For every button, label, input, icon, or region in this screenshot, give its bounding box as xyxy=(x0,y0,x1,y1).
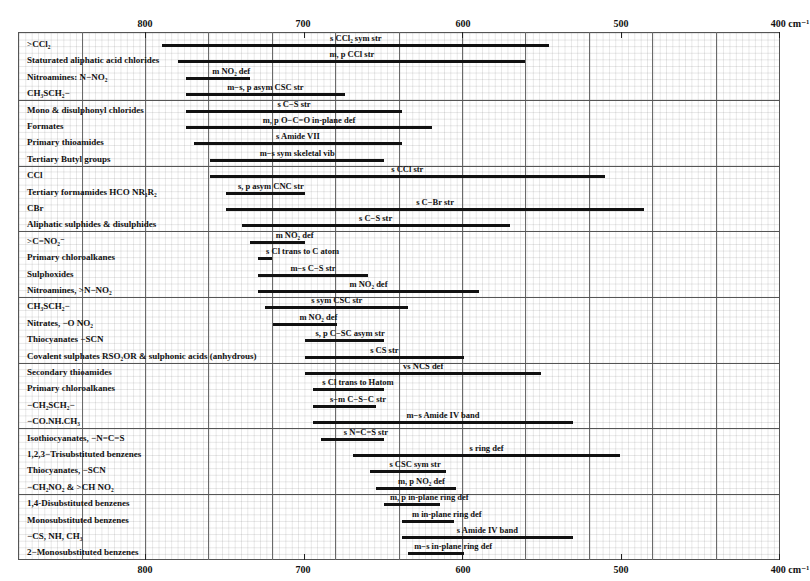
row-label: Secondary thioamides xyxy=(27,367,112,377)
absorption-range-bar xyxy=(226,192,305,195)
top-tick-700: 700 xyxy=(296,18,311,29)
axis-tick-mark xyxy=(779,554,780,560)
absorption-range-bar xyxy=(210,159,384,162)
band-assignment-label: m−s C−S str xyxy=(290,263,335,273)
row-label: −CH₂NO₂ & >CH NO₂ xyxy=(27,482,114,492)
top-tick-500: 500 xyxy=(614,18,629,29)
row-label: −CS, NH, CH₃ xyxy=(27,531,82,541)
band-assignment-label: s C−Br str xyxy=(416,197,454,207)
row-label: Isothiocyanates, −N=C=S xyxy=(27,433,124,443)
absorption-range-bar xyxy=(186,77,249,80)
absorption-range-bar xyxy=(370,470,446,473)
absorption-range-bar xyxy=(250,241,305,244)
row-label: −CH₂SCH₂− xyxy=(27,400,75,410)
group-separator xyxy=(18,297,780,298)
absorption-range-bar xyxy=(305,372,541,375)
bottom-tick-600: 600 xyxy=(456,564,471,575)
band-assignment-label: s C−S str xyxy=(359,213,392,223)
row-label: CH₃SCH₂− xyxy=(27,88,70,98)
row-label: Aliphatic sulphides & disulphides xyxy=(27,219,156,229)
bottom-tick-400: 400 cm⁻¹ xyxy=(771,564,810,575)
band-assignment-label: m in-plane ring def xyxy=(412,509,482,519)
band-assignment-label: m NO₂ def xyxy=(276,230,314,240)
gridline-vertical xyxy=(525,32,526,560)
absorption-range-bar xyxy=(194,142,402,145)
band-assignment-label: s CCl₂ sym str xyxy=(330,33,381,43)
top-tick-400: 400 cm⁻¹ xyxy=(771,18,810,29)
axis-tick-mark xyxy=(145,554,146,560)
band-assignment-label: s ring def xyxy=(470,443,504,453)
band-assignment-label: s C−S str xyxy=(277,99,310,109)
row-label: 2−Monosubstituted benzenes xyxy=(27,547,138,557)
top-tick-600: 600 xyxy=(456,18,471,29)
band-assignment-label: s CCl str xyxy=(391,164,423,174)
absorption-range-bar xyxy=(258,274,369,277)
band-assignment-label: m−s sym skeletal vib xyxy=(260,148,335,158)
top-tick-800: 800 xyxy=(138,18,153,29)
absorption-range-bar xyxy=(186,93,345,96)
row-label: Nitrates, −O NO₂ xyxy=(27,318,93,328)
absorption-range-bar xyxy=(162,44,549,47)
row-label: Staturated aliphatic acid chlorides xyxy=(27,55,159,65)
bottom-tick-500: 500 xyxy=(614,564,629,575)
row-label: Thiocyanates, −SCN xyxy=(27,465,106,475)
row-label: 1,4-Disubstituted benzenes xyxy=(27,498,130,508)
band-assignment-label: s Amide IV band xyxy=(457,525,518,535)
row-label: >C=NO₂⁻ xyxy=(27,236,65,246)
absorption-range-bar xyxy=(226,208,644,211)
row-label: Nitroamines, >N−NO₂ xyxy=(27,285,112,295)
row-label: Covalent sulphates RSO₂OR & sulphonic ac… xyxy=(27,351,257,361)
absorption-range-bar xyxy=(258,257,272,260)
group-separator xyxy=(18,363,780,364)
axis-tick-mark xyxy=(145,32,146,38)
absorption-range-bar xyxy=(321,438,384,441)
band-assignment-label: s, p C−SC asym str xyxy=(315,328,384,338)
band-assignment-label: m−s, p asym CSC str xyxy=(227,82,303,92)
group-separator xyxy=(18,428,780,429)
absorption-range-bar xyxy=(384,503,439,506)
row-label: Primary chloroalkanes xyxy=(27,252,115,262)
gridline-vertical xyxy=(716,32,717,560)
row-label: CH₃SCH₂− xyxy=(27,301,70,311)
band-assignment-label: s N=C=S str xyxy=(344,427,388,437)
group-separator xyxy=(18,100,780,101)
axis-tick-mark xyxy=(779,32,780,38)
absorption-range-bar xyxy=(258,290,480,293)
band-assignment-label: m, p NO₂ def xyxy=(398,476,445,486)
absorption-range-bar xyxy=(178,60,525,63)
band-assignment-label: s Cl trans to Hatom xyxy=(322,377,393,387)
absorption-range-bar xyxy=(242,224,510,227)
band-assignment-label: s CS str xyxy=(370,345,398,355)
row-label: Sulphoxides xyxy=(27,269,74,279)
row-label: Tertiary Butyl groups xyxy=(27,154,111,164)
row-label: 1,2,3−Trisubstituted benzenes xyxy=(27,449,141,459)
band-assignment-label: m, p in-plane ring def xyxy=(390,492,469,502)
band-assignment-label: m, p O−C=O in-plane def xyxy=(263,115,356,125)
row-label: CBr xyxy=(27,203,44,213)
absorption-range-bar xyxy=(376,487,455,490)
absorption-range-bar xyxy=(186,126,432,129)
row-label: Monosubstituted benzenes xyxy=(27,515,129,525)
row-label: >CCl₂ xyxy=(27,39,50,49)
absorption-range-bar xyxy=(313,388,384,391)
row-label: Tertiary formamides HCO NR₁R₂ xyxy=(27,187,157,197)
absorption-range-bar xyxy=(353,454,621,457)
group-separator xyxy=(18,231,780,232)
axis-tick-mark xyxy=(621,32,622,38)
band-assignment-label: s, p asym CNC str xyxy=(238,181,304,191)
bottom-tick-700: 700 xyxy=(296,564,311,575)
absorption-range-bar xyxy=(305,356,464,359)
row-label: Mono & disulphonyl chlorides xyxy=(27,105,144,115)
band-assignment-label: m, p CCl str xyxy=(329,49,374,59)
band-assignment-label: m NO₂ def xyxy=(212,66,250,76)
gridline-vertical xyxy=(589,32,590,560)
absorption-range-bar xyxy=(265,306,408,309)
row-label: Primary thioamides xyxy=(27,137,104,147)
axis-tick-mark xyxy=(462,32,463,38)
band-assignment-label: s−m C−S−C str xyxy=(330,394,386,404)
row-label: −CO.NH.CH₃ xyxy=(27,416,80,426)
absorption-range-bar xyxy=(313,421,573,424)
band-assignment-label: m NO₂ def xyxy=(299,312,337,322)
row-label: Primary chloroalkanes xyxy=(27,383,115,393)
absorption-range-bar xyxy=(186,110,402,113)
